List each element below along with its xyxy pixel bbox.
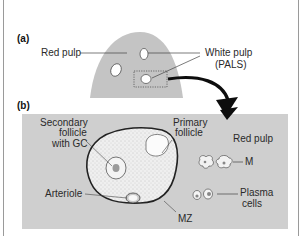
secondary-follicle-label-2: follicle: [59, 127, 87, 138]
marginal-zone-label: MZ: [178, 213, 192, 224]
panel-a-label: (a): [17, 33, 29, 44]
primary-follicle-label-2: follicle: [175, 127, 203, 138]
panel-b-label: (b): [17, 100, 30, 111]
red-pulp-label-a: Red pulp: [41, 47, 81, 58]
secondary-follicle-label-3: with GC: [51, 138, 88, 149]
white-pulp-follicle-region: [87, 128, 178, 203]
spleen-diagram: (a) Red pulp White pulp (PALS) (b): [0, 0, 304, 236]
plasma-cells-label-1: Plasma: [240, 187, 274, 198]
macrophage-label: M: [245, 156, 253, 167]
red-pulp-label-b: Red pulp: [233, 133, 273, 144]
white-pulp-label: White pulp: [205, 47, 253, 58]
arteriole-label: Arteriole: [45, 188, 83, 199]
germinal-center: [113, 164, 120, 172]
pals-label: (PALS): [215, 59, 247, 70]
white-pulp-nodule: [140, 49, 148, 60]
white-pulp-nodule: [141, 75, 151, 84]
spleen-section: [90, 32, 183, 98]
plasma-cells-label-2: cells: [242, 198, 262, 209]
